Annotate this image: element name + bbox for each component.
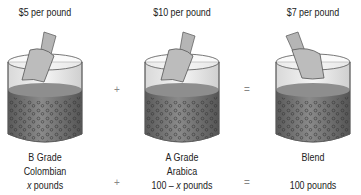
jar-blend (268, 28, 358, 148)
label-colombian: B Grade Colombian x pounds (3, 150, 88, 192)
variety-text: Colombian (3, 164, 88, 178)
grade-text: Blend (271, 150, 356, 164)
label-blend: Blend 100 pounds (271, 150, 356, 192)
jar-arabica (137, 28, 227, 148)
equals-operator-top: = (240, 84, 254, 95)
jar-colombian (0, 28, 90, 148)
plus-operator-top: + (110, 84, 124, 95)
price-label-arabica: $10 per pound (144, 6, 221, 18)
variety-text (271, 164, 356, 178)
price-label-colombian: $5 per pound (7, 6, 84, 18)
quantity-text: 100 pounds (271, 178, 356, 192)
grade-text: A Grade (140, 150, 225, 164)
quantity-text: 100 – x pounds (140, 178, 225, 192)
grade-text: B Grade (3, 150, 88, 164)
quantity-text: x pounds (3, 178, 88, 192)
price-label-blend: $7 per pound (275, 6, 352, 18)
plus-operator-bottom: + (110, 177, 124, 188)
equals-operator-bottom: = (240, 177, 254, 188)
label-arabica: A Grade Arabica 100 – x pounds (140, 150, 225, 192)
variety-text: Arabica (140, 164, 225, 178)
